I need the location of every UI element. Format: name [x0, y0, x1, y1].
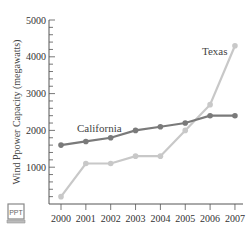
- data-point: [158, 124, 164, 130]
- california-label: California: [77, 122, 122, 134]
- ppt-icon[interactable]: PPT: [6, 203, 26, 227]
- data-point: [58, 142, 64, 148]
- y-tick-label: 3000: [26, 88, 46, 99]
- data-point: [133, 153, 139, 159]
- x-tick-label: 2007: [225, 213, 245, 224]
- y-tick-label: 4000: [26, 51, 46, 62]
- x-axis: 20002001200220032004200520062007: [49, 204, 245, 224]
- y-axis-title: Wind Ppower Capacity (megawatts): [11, 40, 23, 185]
- x-tick-label: 2000: [51, 213, 71, 224]
- x-tick-label: 2005: [175, 213, 195, 224]
- line-chart: 10002000300040005000 2000200120022003200…: [0, 0, 250, 233]
- data-point: [207, 102, 213, 108]
- data-point: [58, 194, 64, 200]
- data-point: [232, 113, 238, 119]
- ppt-badge-text: PPT: [9, 209, 23, 216]
- x-tick-label: 2006: [200, 213, 220, 224]
- data-point: [232, 43, 238, 49]
- x-tick-label: 2002: [101, 213, 121, 224]
- data-point: [158, 153, 164, 159]
- data-point: [83, 161, 89, 167]
- y-axis: 10002000300040005000: [26, 15, 55, 205]
- data-point: [108, 135, 114, 141]
- data-point: [182, 128, 188, 134]
- y-tick-label: 1000: [26, 162, 46, 173]
- data-point: [133, 128, 139, 134]
- y-tick-label: 2000: [26, 125, 46, 136]
- y-tick-label: 5000: [26, 15, 46, 26]
- data-point: [207, 113, 213, 119]
- texas-label: Texas: [202, 45, 228, 57]
- x-tick-label: 2001: [76, 213, 96, 224]
- x-tick-label: 2003: [126, 213, 146, 224]
- data-point: [83, 139, 89, 145]
- data-point: [182, 120, 188, 126]
- data-point: [108, 161, 114, 167]
- x-tick-label: 2004: [150, 213, 170, 224]
